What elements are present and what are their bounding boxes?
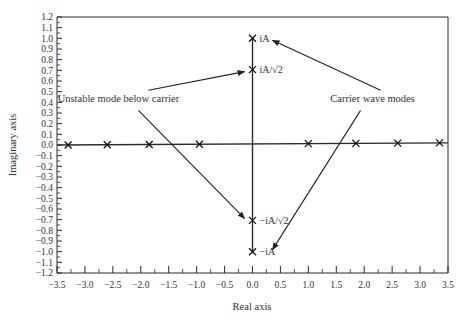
y-tick-label: 1.1 xyxy=(41,23,53,33)
y-tick-label: −1.0 xyxy=(36,247,53,257)
y-tick-label: 1.2 xyxy=(41,12,53,22)
y-tick-label: 0.5 xyxy=(41,87,53,97)
y-tick-label: −0.5 xyxy=(36,194,53,204)
x-tick-label: −1.5 xyxy=(160,280,177,290)
x-tick-label: −2.5 xyxy=(104,280,121,290)
x-tick-label: −2.0 xyxy=(132,280,149,290)
y-tick-label: −1.1 xyxy=(36,258,53,268)
point-label: iA xyxy=(260,33,271,44)
x-tick-label: 0.0 xyxy=(247,280,259,290)
x-tick-label: −0.5 xyxy=(216,280,233,290)
x-tick-label: 2.5 xyxy=(386,280,398,290)
x-tick-label: 3.5 xyxy=(442,280,454,290)
y-tick-label: 0.6 xyxy=(41,76,53,86)
point-labels: iAiA/√2−iA/√2−iA xyxy=(260,33,289,257)
y-tick-label: −0.2 xyxy=(36,162,53,172)
y-tick-label: −0.3 xyxy=(36,172,53,182)
annotation-arrow xyxy=(148,72,244,91)
y-axis-title: Imaginary axis xyxy=(7,114,18,177)
x-tick-label: −3.0 xyxy=(76,280,93,290)
y-tick-label: 0.4 xyxy=(41,98,53,108)
annotation-arrow xyxy=(273,40,381,90)
y-tick-label: 0.1 xyxy=(41,130,53,140)
y-tick-label: 0.0 xyxy=(41,140,53,150)
annotation-carrier-modes: Carrier wave modes xyxy=(330,93,415,104)
y-tick-label: 0.2 xyxy=(41,119,53,129)
y-tick-label: 0.8 xyxy=(41,55,53,65)
y-tick-label: −0.8 xyxy=(36,226,53,236)
x-axis: −3.5−3.0−2.5−2.0−1.5−1.0−0.50.00.51.01.5… xyxy=(48,266,454,290)
y-tick-label: −0.6 xyxy=(36,204,53,214)
y-tick-label: −0.4 xyxy=(36,183,53,193)
point-label: iA/√2 xyxy=(260,64,283,75)
y-tick-label: 0.9 xyxy=(41,44,53,54)
root-locus-chart: 1.21.11.00.90.80.70.60.50.40.30.20.10.0−… xyxy=(0,0,463,320)
point-label: −iA/√2 xyxy=(260,215,289,226)
annotation-arrow xyxy=(138,110,244,218)
y-tick-label: 0.7 xyxy=(41,66,53,76)
x-tick-label: −1.0 xyxy=(188,280,205,290)
y-tick-label: 0.3 xyxy=(41,108,53,118)
y-tick-label: 1.0 xyxy=(41,34,53,44)
y-tick-label: −0.9 xyxy=(36,236,53,246)
y-tick-label: −0.1 xyxy=(36,151,53,161)
x-tick-label: 1.0 xyxy=(302,280,314,290)
x-tick-label: 3.0 xyxy=(414,280,426,290)
x-tick-label: 0.5 xyxy=(274,280,286,290)
x-axis-title: Real axis xyxy=(233,301,272,312)
y-tick-label: −0.7 xyxy=(36,215,53,225)
y-tick-label: −1.2 xyxy=(36,268,53,278)
x-tick-label: −3.5 xyxy=(48,280,65,290)
annotation-unstable-mode: Unstable mode below carrier xyxy=(58,93,180,104)
annotation-arrow xyxy=(273,110,361,249)
x-tick-label: 1.5 xyxy=(330,280,342,290)
x-tick-label: 2.0 xyxy=(358,280,370,290)
